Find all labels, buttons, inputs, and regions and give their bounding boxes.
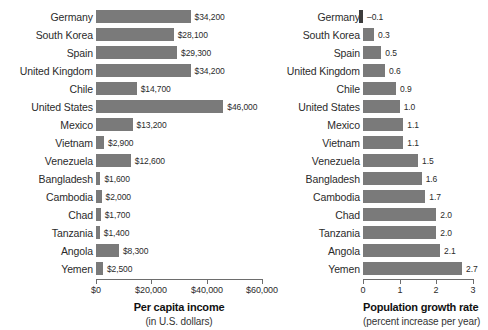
axis-tick <box>151 279 152 284</box>
bar-row: Cambodia1.7 <box>255 188 488 206</box>
category-label: Tanzania <box>0 224 93 242</box>
value-label: 0.6 <box>389 62 401 80</box>
x-axis-line-left <box>96 279 262 280</box>
bar-row: Chad2.0 <box>255 206 488 224</box>
axis-title-left: Per capita income <box>96 301 262 313</box>
value-label: 1.7 <box>429 188 441 206</box>
bar-row: South Korea0.3 <box>255 26 488 44</box>
category-label: United States <box>255 98 360 116</box>
category-label: Tanzania <box>255 224 360 242</box>
category-label: South Korea <box>0 26 93 44</box>
bar-row: Angola$8,300 <box>0 242 282 260</box>
value-label: 2.0 <box>440 224 452 242</box>
category-label: Chile <box>0 80 93 98</box>
bar <box>363 28 374 41</box>
axis-tick-label: 0 <box>361 285 366 295</box>
bar-row: Mexico1.1 <box>255 116 488 134</box>
bar-row: Yemen2.7 <box>255 260 488 278</box>
axis-subtitle-left: (in U.S. dollars) <box>96 316 262 327</box>
bar-row: Germany$34,200 <box>0 8 282 26</box>
bar-row: Chile$14,700 <box>0 80 282 98</box>
axis-tick <box>207 279 208 284</box>
chart-panel-per-capita-income: Germany$34,200South Korea$28,100Spain$29… <box>0 0 282 330</box>
axis-tick <box>436 279 437 284</box>
value-label: $2,500 <box>107 260 132 278</box>
category-label: Bangladesh <box>255 170 360 188</box>
category-label: Yemen <box>255 260 360 278</box>
value-label: 0.3 <box>378 26 390 44</box>
bar-rows-right: Germany–0.1South Korea0.3Spain0.5United … <box>255 8 488 278</box>
category-label: Chad <box>255 206 360 224</box>
bar-row: Tanzania$1,400 <box>0 224 282 242</box>
category-label: Germany <box>0 8 93 26</box>
bar-row: Bangladesh$1,600 <box>0 170 282 188</box>
value-label: $34,200 <box>195 62 225 80</box>
value-label: 2.1 <box>444 242 456 260</box>
category-label: Cambodia <box>255 188 360 206</box>
bar-row: United Kingdom$34,200 <box>0 62 282 80</box>
category-label: Spain <box>0 44 93 62</box>
category-label: Mexico <box>0 116 93 134</box>
value-label: 1.5 <box>422 152 434 170</box>
value-label: –0.1 <box>367 8 383 26</box>
category-label: Yemen <box>0 260 93 278</box>
value-label: $29,300 <box>181 44 211 62</box>
bar-row: Chile0.9 <box>255 80 488 98</box>
category-label: United States <box>0 98 93 116</box>
bar <box>96 154 131 167</box>
bar-row: Bangladesh1.6 <box>255 170 488 188</box>
axis-tick-label: $40,000 <box>191 285 223 295</box>
value-label: $1,600 <box>104 170 129 188</box>
bar-row: Venezuela$12,600 <box>0 152 282 170</box>
value-label: $34,200 <box>195 8 225 26</box>
category-label: Germany <box>255 8 360 26</box>
category-label: Vietnam <box>255 134 360 152</box>
bar <box>363 208 436 221</box>
bar-row: Angola2.1 <box>255 242 488 260</box>
bar <box>96 46 177 59</box>
category-label: Chad <box>0 206 93 224</box>
bar <box>96 172 100 185</box>
bar <box>96 10 191 23</box>
figure-container: Germany$34,200South Korea$28,100Spain$29… <box>0 0 488 330</box>
axis-tick-label: $0 <box>91 285 101 295</box>
value-label: $14,700 <box>141 80 171 98</box>
bar-row: Spain$29,300 <box>0 44 282 62</box>
category-label: South Korea <box>255 26 360 44</box>
bar <box>96 82 137 95</box>
bar-row: Tanzania2.0 <box>255 224 488 242</box>
bar <box>363 244 440 257</box>
axis-tick <box>363 279 364 284</box>
axis-tick <box>473 279 474 284</box>
bar <box>363 226 436 239</box>
category-label: Mexico <box>255 116 360 134</box>
bar <box>363 172 422 185</box>
value-label: 1.1 <box>407 134 419 152</box>
bar <box>96 118 133 131</box>
value-label: $2,000 <box>106 188 131 206</box>
bar <box>363 136 403 149</box>
bar-row: United States1.0 <box>255 98 488 116</box>
bar <box>96 226 100 239</box>
value-label: 1.1 <box>407 116 419 134</box>
bar <box>96 208 101 221</box>
x-axis-line-right <box>363 279 473 280</box>
value-label: 0.5 <box>385 44 397 62</box>
axis-tick-label: 2 <box>434 285 439 295</box>
category-label: Angola <box>0 242 93 260</box>
bar-row: United Kingdom0.6 <box>255 62 488 80</box>
bar-row: Vietnam$2,900 <box>0 134 282 152</box>
value-label: 2.0 <box>440 206 452 224</box>
bar <box>96 64 191 77</box>
bar <box>96 28 174 41</box>
axis-tick <box>96 279 97 284</box>
bar <box>96 136 104 149</box>
bar <box>363 82 396 95</box>
bar <box>363 190 425 203</box>
bar-row: Venezuela1.5 <box>255 152 488 170</box>
category-label: Angola <box>255 242 360 260</box>
value-label: 0.9 <box>400 80 412 98</box>
bar-row: Germany–0.1 <box>255 8 488 26</box>
bar-row: Spain0.5 <box>255 44 488 62</box>
bar-row: Mexico$13,200 <box>0 116 282 134</box>
